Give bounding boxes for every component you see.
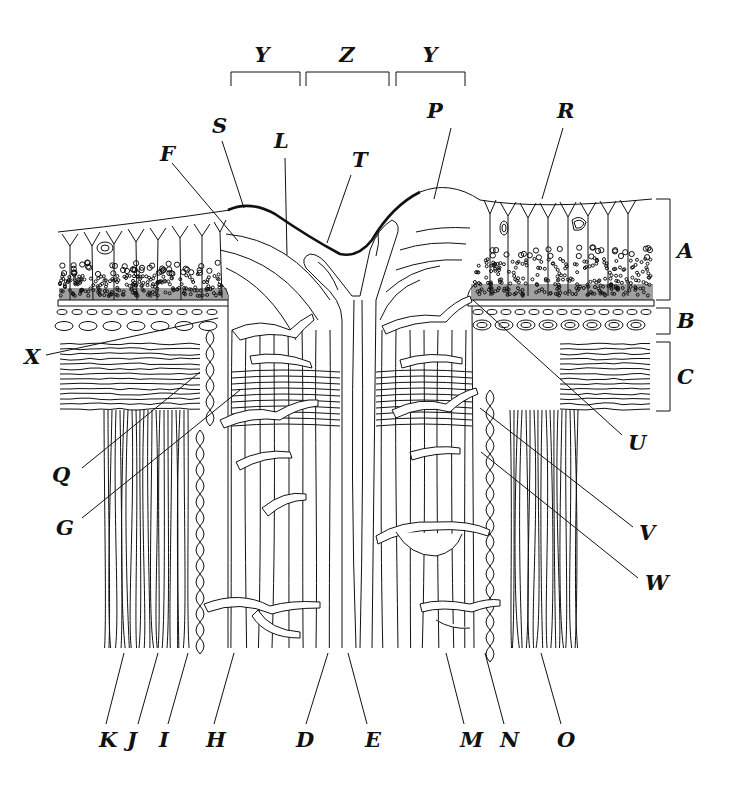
- label-text: S: [212, 113, 227, 138]
- label-text: Q: [52, 462, 70, 487]
- label-m: M: [446, 653, 484, 752]
- leader-line: [106, 653, 124, 724]
- label-s: S: [212, 113, 244, 208]
- leader-line: [485, 653, 504, 724]
- leader-line: [542, 128, 563, 199]
- sclera-fibres: [60, 343, 650, 410]
- annotation-labels: SFLTPRXQGUVWKJIHDEMNO: [22, 98, 671, 752]
- label-j: J: [123, 653, 158, 752]
- optic-nerve-head-diagram: YZY ABC SFLTPRXQGUVWKJIHDEMNO: [0, 0, 733, 785]
- leader-line: [541, 653, 561, 724]
- bracket-line: [231, 72, 300, 86]
- bracket-label: Y: [255, 42, 272, 67]
- leader-line: [222, 141, 244, 208]
- label-text: R: [556, 98, 574, 123]
- bracket-label: Z: [338, 42, 355, 67]
- leader-line: [306, 653, 328, 724]
- label-text: G: [56, 515, 74, 540]
- label-text: I: [158, 727, 170, 752]
- side-brackets: ABC: [656, 199, 695, 411]
- retina-surface-left: [58, 210, 230, 232]
- side-bracket-c: C: [656, 342, 694, 411]
- leader-line: [480, 408, 633, 527]
- label-text: O: [557, 727, 576, 752]
- label-text: E: [364, 727, 382, 752]
- label-text: U: [628, 430, 648, 455]
- label-text: T: [352, 147, 369, 172]
- label-text: M: [459, 727, 484, 752]
- label-text: X: [22, 344, 41, 369]
- label-e: E: [348, 653, 382, 752]
- leader-line: [327, 175, 351, 243]
- leader-line: [348, 653, 367, 724]
- label-text: V: [639, 520, 658, 545]
- label-u: U: [473, 300, 648, 455]
- label-d: D: [295, 653, 328, 752]
- bracket-line: [396, 72, 465, 86]
- bracket-label: Y: [423, 42, 440, 67]
- top-bracket-y-right: Y: [396, 42, 465, 86]
- label-n: N: [485, 653, 520, 752]
- bracket-label: C: [677, 364, 694, 389]
- top-bracket-y-left: Y: [231, 42, 300, 86]
- side-bracket-a: A: [656, 199, 693, 300]
- side-bracket-b: B: [656, 308, 695, 334]
- label-text: N: [499, 727, 520, 752]
- top-bracket-z: Z: [306, 42, 389, 86]
- label-o: O: [541, 653, 576, 752]
- label-k: K: [98, 653, 124, 752]
- label-text: W: [645, 570, 671, 595]
- label-text: D: [295, 727, 315, 752]
- label-text: H: [205, 727, 227, 752]
- label-text: J: [123, 727, 139, 752]
- bracket-line: [656, 199, 670, 300]
- optic-nerve-bundles: [104, 300, 578, 648]
- retina-surface-right: [420, 188, 652, 205]
- bracket-line: [656, 308, 670, 334]
- label-i: I: [158, 653, 188, 752]
- leader-line: [285, 158, 287, 255]
- top-brackets: YZY: [231, 42, 465, 86]
- leader-line: [82, 372, 200, 468]
- label-text: K: [98, 727, 118, 752]
- leader-line: [168, 653, 188, 724]
- inner-limiting-surface: [228, 192, 420, 255]
- bracket-label: B: [676, 308, 695, 333]
- leader-line: [434, 128, 451, 199]
- label-text: P: [426, 98, 444, 123]
- bracket-line: [306, 72, 389, 86]
- label-p: P: [426, 98, 451, 199]
- label-f: F: [159, 141, 238, 241]
- bracket-line: [656, 342, 670, 411]
- label-text: L: [273, 128, 289, 153]
- label-h: H: [205, 653, 234, 752]
- label-l: L: [273, 128, 289, 255]
- bracket-label: A: [675, 238, 693, 263]
- tissue-drawing: [55, 188, 654, 663]
- leader-line: [138, 653, 158, 724]
- label-v: V: [480, 408, 658, 545]
- label-text: F: [159, 141, 177, 166]
- label-t: T: [327, 147, 369, 243]
- label-r: R: [542, 98, 574, 199]
- leader-line: [446, 653, 464, 724]
- pial-vessel-braids: [196, 330, 494, 662]
- leader-line: [214, 653, 234, 724]
- leader-line: [172, 163, 238, 241]
